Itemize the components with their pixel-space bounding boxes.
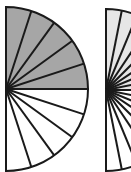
semicircle-2 xyxy=(106,9,131,171)
semicircle-1 xyxy=(6,7,88,171)
fraction-diagram xyxy=(0,0,131,172)
